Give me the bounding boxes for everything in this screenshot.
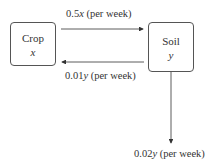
label-soil-out: 0.02y (per week) [134, 148, 205, 159]
soil-node-name: Soil [149, 34, 193, 48]
crop-node: Crop x [10, 22, 56, 66]
soil-node-variable: y [149, 48, 193, 62]
crop-node-variable: x [11, 45, 55, 59]
label-crop-to-soil: 0.5x (per week) [66, 8, 132, 19]
soil-node: Soil y [148, 22, 194, 72]
crop-node-name: Crop [11, 31, 55, 45]
label-soil-to-crop: 0.01y (per week) [65, 70, 136, 81]
